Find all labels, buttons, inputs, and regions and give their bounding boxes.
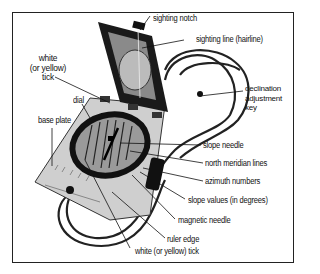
label-line: adjustment [245, 94, 282, 104]
label-white-tick-top: white (or yellow) tick [26, 54, 70, 83]
label-magnetic-needle: magnetic needle [178, 216, 231, 226]
label-line: declination [245, 84, 282, 94]
label-dial: dial [73, 96, 84, 106]
label-declination-key: declination adjustment key [245, 84, 282, 113]
label-north-meridian-lines: north meridian lines [205, 159, 267, 169]
label-ruler-edge: ruler edge [167, 235, 199, 245]
label-azimuth-numbers: azimuth numbers [205, 177, 260, 187]
label-white-tick-bottom: white (or yellow) tick [135, 247, 199, 257]
label-line: tick [26, 73, 70, 83]
label-slope-needle: slope needle [203, 141, 244, 151]
label-sighting-notch: sighting notch [153, 14, 197, 24]
label-slope-values: slope values (in degrees) [188, 196, 268, 206]
label-base-plate: base plate [38, 116, 71, 126]
label-line: key [245, 103, 282, 113]
label-sighting-line: sighting line (hairline) [196, 35, 263, 45]
